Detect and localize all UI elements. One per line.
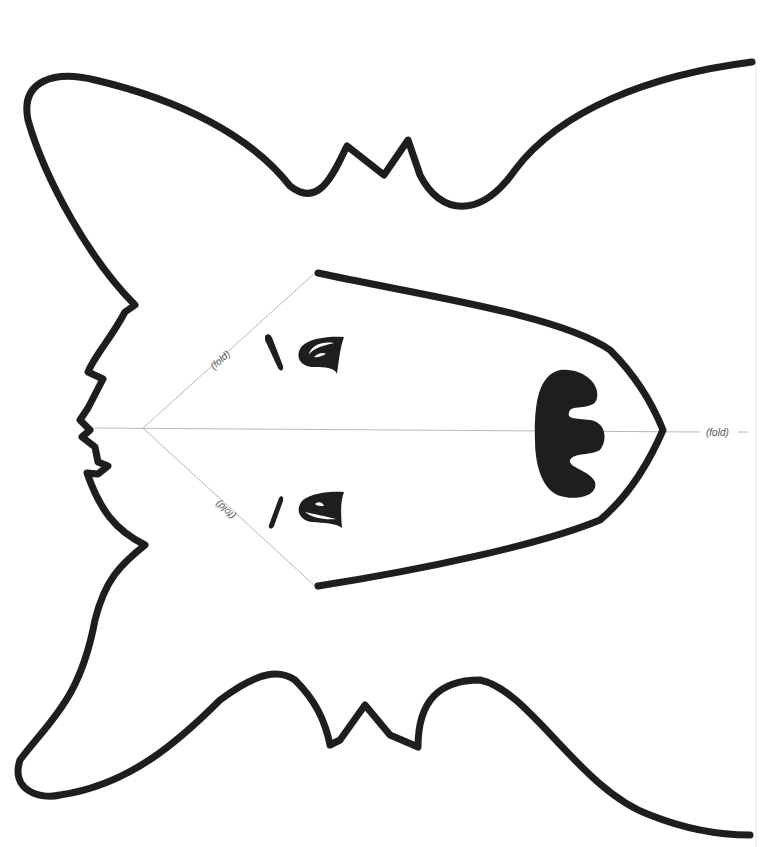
lower-brow	[269, 496, 283, 528]
lower-eye-shape	[299, 492, 344, 528]
nose	[535, 370, 605, 498]
lower-fold-label: (fold)	[213, 498, 237, 521]
fold-lines	[92, 272, 748, 587]
center-fold-line	[92, 428, 700, 432]
head-outline	[18, 62, 752, 835]
mask-template: (fold) (fold) (fold)	[0, 0, 763, 847]
center-fold-label: (fold)	[706, 427, 729, 438]
upper-fold-line	[143, 272, 316, 428]
upper-brow	[265, 334, 283, 370]
upper-eye	[265, 334, 344, 374]
upper-fold-label: (fold)	[208, 348, 232, 371]
lower-eye	[269, 492, 344, 529]
